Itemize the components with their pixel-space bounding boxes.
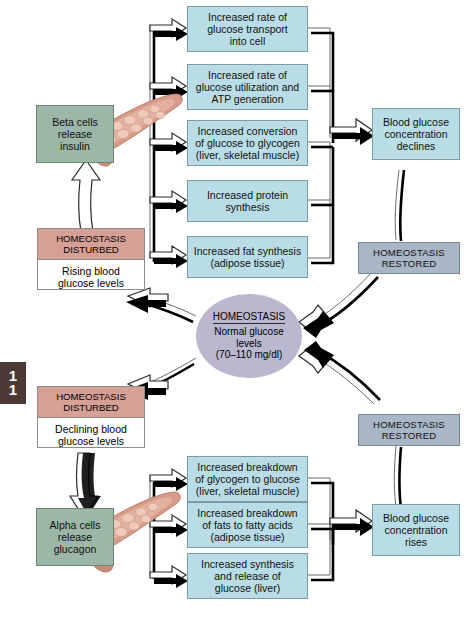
insulin-effect-4-line2: synthesis bbox=[226, 201, 270, 213]
disturbed-declining-body: Declining blood glucose levels bbox=[38, 418, 144, 454]
glucagon-effect-3-line3: glucose (liver) bbox=[215, 582, 280, 594]
disturbed-rising-header-line1: HOMEOSTASIS bbox=[40, 233, 142, 244]
chapter-digit-2: 1 bbox=[9, 383, 17, 397]
insulin-effect-3-line1: Increased conversion bbox=[198, 125, 298, 137]
glucagon-effect-3-line2: and release of bbox=[214, 570, 281, 582]
blood-glucose-declines-box[interactable]: Blood glucose concentration declines bbox=[372, 108, 460, 160]
disturbed-rising-body-line2: glucose levels bbox=[41, 277, 141, 289]
glucagon-effect-1-line3: (liver, skeletal muscle) bbox=[196, 485, 299, 497]
homeostasis-disturbed-rising-box[interactable]: HOMEOSTASIS DISTURBED Rising blood gluco… bbox=[37, 228, 145, 290]
insulin-effect-3-line2: of glucose to glycogen bbox=[195, 137, 300, 149]
glucagon-effect-3-line1: Increased synthesis bbox=[201, 558, 294, 570]
restored-lower-line1: HOMEOSTASIS bbox=[373, 419, 445, 430]
insulin-effect-2-line3: ATP generation bbox=[212, 93, 284, 105]
declines-line3: declines bbox=[397, 140, 436, 152]
restored-lower-line2: RESTORED bbox=[382, 430, 437, 441]
disturbed-declining-header-line1: HOMEOSTASIS bbox=[40, 391, 142, 402]
arrow-declines-to-restored bbox=[395, 170, 404, 241]
declines-line2: concentration bbox=[384, 128, 447, 140]
glucagon-effect-2-line3: (adipose tissue) bbox=[210, 531, 284, 543]
disturbed-declining-body-line1: Declining blood bbox=[41, 423, 141, 435]
restored-upper-line2: RESTORED bbox=[382, 258, 437, 269]
blood-glucose-rises-box[interactable]: Blood glucose concentration rises bbox=[372, 504, 460, 556]
glucagon-effect-2-line1: Increased breakdown bbox=[197, 507, 297, 519]
beta-cells-line3: insulin bbox=[60, 140, 90, 152]
alpha-cells-line3: glucagon bbox=[54, 543, 97, 555]
homeostasis-line2: levels bbox=[236, 338, 262, 350]
disturbed-declining-body-line2: glucose levels bbox=[41, 435, 141, 447]
beta-cells-line2: release bbox=[58, 128, 92, 140]
homeostasis-title: HOMEOSTASIS bbox=[213, 311, 286, 324]
insulin-effect-box-5[interactable]: Increased fat synthesis (adipose tissue) bbox=[187, 236, 308, 278]
insulin-effect-3-line3: (liver, skeletal muscle) bbox=[196, 149, 299, 161]
homeostasis-range: (70–110 mg/dl) bbox=[216, 349, 283, 361]
insulin-effect-1-line1: Increased rate of bbox=[208, 11, 287, 23]
collector-insulin bbox=[308, 28, 374, 263]
homeostasis-restored-upper-box[interactable]: HOMEOSTASIS RESTORED bbox=[358, 242, 460, 274]
glucagon-effect-box-3[interactable]: Increased synthesis and release of gluco… bbox=[187, 553, 308, 599]
glucagon-effect-2-line2: of fats to fatty acids bbox=[202, 519, 292, 531]
disturbed-rising-header: HOMEOSTASIS DISTURBED bbox=[38, 229, 144, 260]
arrow-restored-to-oval bbox=[299, 272, 378, 338]
disturbed-rising-body: Rising blood glucose levels bbox=[38, 260, 144, 296]
insulin-effect-4-line1: Increased protein bbox=[207, 189, 288, 201]
insulin-effect-box-1[interactable]: Increased rate of glucose transport into… bbox=[187, 6, 308, 52]
glucagon-effect-box-1[interactable]: Increased breakdown of glycogen to gluco… bbox=[187, 456, 308, 502]
insulin-effect-box-3[interactable]: Increased conversion of glucose to glyco… bbox=[187, 120, 308, 166]
beta-cells-line1: Beta cells bbox=[52, 116, 98, 128]
declines-line1: Blood glucose bbox=[383, 116, 449, 128]
homeostasis-center-oval: HOMEOSTASIS Normal glucose levels (70–11… bbox=[196, 294, 302, 378]
rises-line3: rises bbox=[405, 536, 427, 548]
rises-line2: concentration bbox=[384, 524, 447, 536]
alpha-cells-box[interactable]: Alpha cells release glucagon bbox=[36, 508, 114, 566]
chapter-number-tab: 1 1 bbox=[0, 362, 26, 404]
restored-upper-line1: HOMEOSTASIS bbox=[373, 247, 445, 258]
collector-glucagon bbox=[308, 478, 374, 580]
insulin-effect-2-line1: Increased rate of bbox=[208, 69, 287, 81]
beta-cells-box[interactable]: Beta cells release insulin bbox=[36, 105, 114, 163]
disturbed-rising-header-line2: DISTURBED bbox=[40, 244, 142, 255]
glucagon-effect-1-line2: of glycogen to glucose bbox=[195, 473, 300, 485]
diagram-canvas: .hollow{fill:#ffffff;stroke:#2b2b2b;stro… bbox=[0, 0, 469, 623]
homeostasis-disturbed-declining-box[interactable]: HOMEOSTASIS DISTURBED Declining blood gl… bbox=[37, 386, 145, 448]
disturbed-declining-header: HOMEOSTASIS DISTURBED bbox=[38, 387, 144, 418]
glucagon-effect-1-line1: Increased breakdown bbox=[197, 461, 297, 473]
insulin-effect-box-2[interactable]: Increased rate of glucose utilization an… bbox=[187, 64, 308, 110]
insulin-effect-1-line2: glucose transport bbox=[207, 23, 288, 35]
disturbed-rising-body-line1: Rising blood bbox=[41, 265, 141, 277]
insulin-effect-5-line2: (adipose tissue) bbox=[210, 257, 284, 269]
homeostasis-line1: Normal glucose bbox=[214, 326, 283, 338]
disturbed-declining-header-line2: DISTURBED bbox=[40, 402, 142, 413]
insulin-effect-2-line2: glucose utilization and bbox=[196, 81, 299, 93]
alpha-cells-line1: Alpha cells bbox=[50, 519, 101, 531]
insulin-effect-box-4[interactable]: Increased protein synthesis bbox=[187, 180, 308, 222]
rises-line1: Blood glucose bbox=[383, 512, 449, 524]
homeostasis-restored-lower-box[interactable]: HOMEOSTASIS RESTORED bbox=[358, 414, 460, 446]
insulin-effect-5-line1: Increased fat synthesis bbox=[194, 245, 301, 257]
arrow-oval-to-restored-lower bbox=[299, 341, 380, 404]
insulin-effect-1-line3: into cell bbox=[230, 35, 266, 47]
alpha-cells-line2: release bbox=[58, 531, 92, 543]
glucagon-effect-box-2[interactable]: Increased breakdown of fats to fatty aci… bbox=[187, 502, 308, 548]
